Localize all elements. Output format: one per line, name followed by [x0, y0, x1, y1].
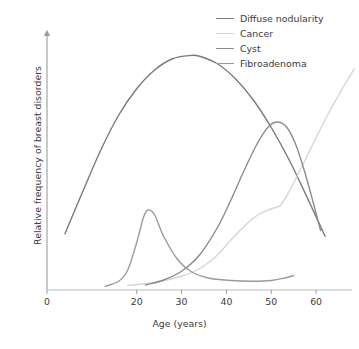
- series-line-diffuse-nodularity: [65, 55, 325, 236]
- series-line-cyst: [146, 122, 321, 285]
- legend-swatch-icon: [216, 18, 234, 19]
- chart-legend: Diffuse nodularity Cancer Cyst Fibroaden…: [216, 12, 323, 70]
- x-axis-title: Age (years): [0, 318, 359, 329]
- x-axis-tick-label: 50: [256, 296, 286, 307]
- x-axis-tick-label: 60: [301, 296, 331, 307]
- legend-item-label: Diffuse nodularity: [240, 13, 323, 24]
- x-axis-tick-label: 30: [167, 296, 197, 307]
- legend-swatch-icon: [216, 33, 234, 34]
- x-axis-tick-label: 0: [32, 296, 62, 307]
- x-axis-ticks: [47, 290, 316, 294]
- chart-container: Diffuse nodularity Cancer Cyst Fibroaden…: [0, 0, 359, 349]
- series-line-fibroadenoma: [105, 210, 293, 286]
- legend-item-label: Cancer: [240, 28, 273, 39]
- x-axis-tick-label: 40: [211, 296, 241, 307]
- x-axis-tick-label: 20: [122, 296, 152, 307]
- legend-swatch-icon: [216, 63, 234, 64]
- legend-item-cancer[interactable]: Cancer: [216, 27, 323, 40]
- legend-item-label: Fibroadenoma: [240, 58, 307, 69]
- legend-item-diffuse-nodularity[interactable]: Diffuse nodularity: [216, 12, 323, 25]
- legend-item-label: Cyst: [240, 43, 261, 54]
- axis-lines: [47, 33, 352, 290]
- data-series-group: [65, 55, 354, 286]
- y-axis-title: Relative frequency of breast disorders: [32, 36, 43, 276]
- legend-item-cyst[interactable]: Cyst: [216, 42, 323, 55]
- legend-item-fibroadenoma[interactable]: Fibroadenoma: [216, 57, 323, 70]
- legend-swatch-icon: [216, 48, 234, 49]
